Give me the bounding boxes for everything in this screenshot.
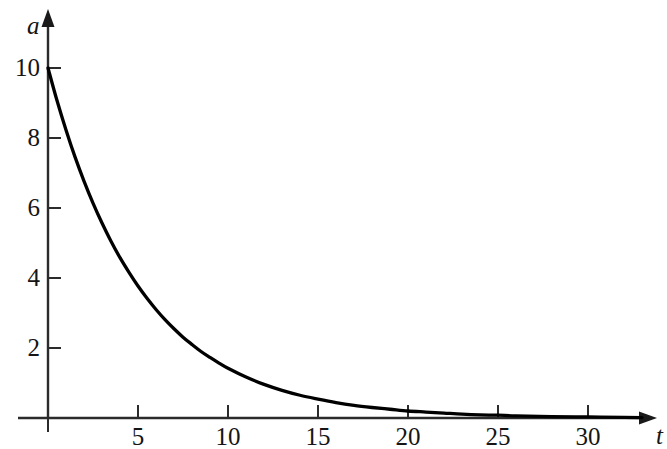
y-tick-label-6: 6 xyxy=(0,195,40,220)
x-tick-label-20: 20 xyxy=(383,424,433,449)
x-tick-label-25: 25 xyxy=(473,424,523,449)
y-axis-label: a xyxy=(27,13,40,38)
plot-area xyxy=(0,0,667,449)
x-tick-label-15: 15 xyxy=(293,424,343,449)
y-tick-label-10: 10 xyxy=(0,55,40,80)
x-tick-label-5: 5 xyxy=(113,424,163,449)
y-tick-label-2: 2 xyxy=(0,335,40,360)
exponential-decay-chart: a t 10 8 6 4 2 5 10 15 20 25 30 xyxy=(0,0,667,449)
x-tick-label-30: 30 xyxy=(563,424,613,449)
y-tick-label-8: 8 xyxy=(0,125,40,150)
y-tick-label-4: 4 xyxy=(0,265,40,290)
x-tick-label-10: 10 xyxy=(203,424,253,449)
x-axis-label: t xyxy=(656,423,663,448)
y-axis-arrow-icon xyxy=(42,9,55,27)
decay-curve xyxy=(48,68,642,418)
